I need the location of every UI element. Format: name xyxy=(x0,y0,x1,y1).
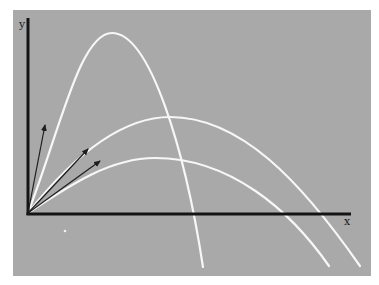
y-axis-label: y xyxy=(18,18,26,31)
diagram-canvas: y x xyxy=(0,0,379,285)
diagram-panel xyxy=(13,10,371,276)
scan-speck xyxy=(64,230,67,233)
x-axis-label: x xyxy=(344,215,351,228)
